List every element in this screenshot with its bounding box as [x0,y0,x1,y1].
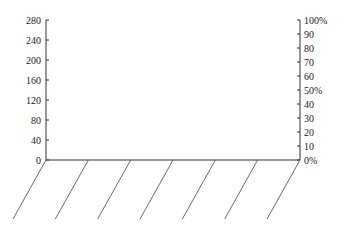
right-tick-label: 30 [304,113,314,124]
pareto-chart-empty: 04080120160200240280 0%1020304050%607080… [0,0,344,232]
category-dividers [13,160,300,219]
left-tick-label: 240 [26,35,41,46]
right-tick-label: 90 [304,29,314,40]
category-divider [98,160,131,219]
category-divider [140,160,173,219]
right-tick-label: 20 [304,127,314,138]
right-tick-label: 10 [304,141,314,152]
right-tick-label: 40 [304,99,314,110]
left-tick-label: 280 [26,15,41,26]
right-axis: 0%1020304050%60708090100% [297,15,327,166]
right-tick-label: 0% [304,155,317,166]
left-tick-label: 160 [26,75,41,86]
right-tick-label: 50% [304,85,322,96]
left-tick-label: 80 [31,115,41,126]
left-tick-label: 0 [36,155,41,166]
left-axis: 04080120160200240280 [26,15,49,166]
category-divider [55,160,88,219]
category-divider [225,160,258,219]
right-tick-label: 60 [304,71,314,82]
left-tick-label: 200 [26,55,41,66]
right-tick-label: 100% [304,15,327,26]
right-tick-label: 70 [304,57,314,68]
category-divider [267,160,300,219]
left-tick-label: 40 [31,135,41,146]
category-divider [182,160,215,219]
right-tick-label: 80 [304,43,314,54]
category-divider [13,160,46,219]
left-tick-label: 120 [26,95,41,106]
